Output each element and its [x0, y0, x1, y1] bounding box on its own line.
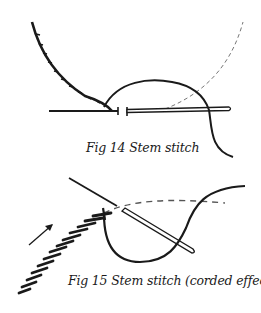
- fig15-thread-tail: [69, 178, 117, 206]
- fig15-thread-loop: [104, 186, 245, 262]
- direction-arrow-icon: [29, 224, 53, 245]
- fig14-stitch-twists: [36, 34, 100, 103]
- fig14-dashed-guide: [165, 22, 243, 109]
- fig14-caption: Fig 14 Stem stitch: [86, 140, 199, 155]
- fig14-needle: [127, 107, 231, 113]
- fig14-drawing: [32, 22, 243, 157]
- stitch-illustration: [0, 0, 261, 313]
- fig14-dashed-under-stitch: [33, 26, 100, 103]
- fig15-caption: Fig 15 Stem stitch (corded effect): [68, 273, 261, 288]
- fig14-worked-stitch: [32, 22, 112, 111]
- fig15-needle: [122, 208, 194, 253]
